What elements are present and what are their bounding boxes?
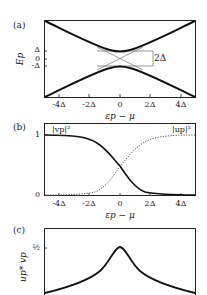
panel-a-ytick-minus-delta: -Δ [26,62,40,70]
panel-a-xtick: -4Δ [52,101,66,109]
panel-c-frame [45,229,196,295]
panel-a-xtick: 2Δ [145,101,156,109]
panel-a-xtick: 0 [117,101,122,109]
panel-a-ylabel: Ep [15,53,25,65]
panel-a-label: (a) [13,21,25,30]
panel-a-xtick: -2Δ [82,101,96,109]
panel-a-ytick-delta: Δ [28,46,40,54]
panel-b-label: (b) [13,123,26,132]
panel-b-ytick-zero: 0 [28,191,40,199]
panel-a-xlabel: εp − μ [105,111,135,121]
panel-b-xlabel: εp − μ [105,210,135,220]
panel-b-ytick-one: 1 [28,131,40,139]
panel-c-ytick-half: ½ [28,244,40,252]
panel-b-xtick: 4Δ [176,200,187,208]
v-series-label: |vp|² [52,125,70,134]
panel-b-v-curve [45,135,195,195]
panel-b-frame [45,124,196,196]
panel-a-xtick: 4Δ [176,101,187,109]
panel-b-ticks [44,135,181,196]
u-series-label: |up|² [172,125,191,134]
panel-a-lower-branch [45,67,195,98]
panel-b-xtick: -4Δ [52,200,66,208]
panel-c-curve [45,247,195,293]
panel-b-xtick: 0 [117,200,122,208]
panel-b-xtick: -2Δ [82,200,96,208]
panel-c-ylabel: up* vp [18,252,28,282]
panel-c-label: (c) [13,226,25,235]
gap-annotation: 2Δ [154,54,166,63]
panel-b-xtick: 2Δ [145,200,156,208]
panel-a-upper-branch [45,21,195,52]
